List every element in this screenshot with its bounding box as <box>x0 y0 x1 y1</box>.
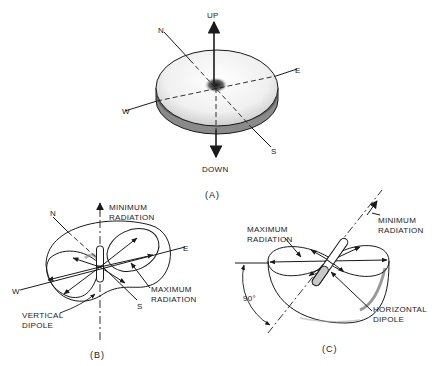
label-min-radiation-1: MINIMUM <box>109 203 147 212</box>
caption-b: (B) <box>90 350 105 360</box>
caption-a: (A) <box>205 190 220 200</box>
radiation-pattern-diagram: UP DOWN N S E W (A) <box>0 0 438 366</box>
label-min-radiation-2: RADIATION <box>109 213 155 222</box>
label-vertical-dipole-2: DIPOLE <box>22 321 53 330</box>
label-horizontal-dipole-1: HORIZONTAL <box>373 305 427 314</box>
figure-a-doughnut-pattern: UP DOWN N S E W (A) <box>122 11 301 200</box>
label-west: W <box>12 287 20 296</box>
label-east: E <box>295 66 301 75</box>
label-south: S <box>271 147 277 156</box>
label-south: S <box>137 302 143 311</box>
south-axis <box>252 128 271 147</box>
figure-b-vertical-dipole: N S E W MINIMUM RADIATION MAXIMUM RADIAT… <box>12 203 197 360</box>
figure-c-horizontal-dipole: MAXIMUM RADIATION MINIMUM RADIATION 90° … <box>235 190 427 354</box>
label-down: DOWN <box>202 165 229 174</box>
caption-c: (C) <box>322 344 338 354</box>
label-horizontal-dipole-2: DIPOLE <box>373 315 404 324</box>
label-max-radiation-1: MAXIMUM <box>247 225 288 234</box>
vertical-dipole-element <box>97 246 104 282</box>
label-vertical-dipole-1: VERTICAL <box>22 311 64 320</box>
label-east: E <box>183 244 189 253</box>
label-north: N <box>158 26 164 35</box>
label-max-radiation-2: RADIATION <box>151 295 197 304</box>
label-angle-90: 90° <box>243 294 256 303</box>
east-axis <box>276 69 297 76</box>
label-north: N <box>50 209 56 218</box>
north-axis <box>164 32 190 60</box>
label-max-radiation-2: RADIATION <box>247 235 293 244</box>
label-max-radiation-1: MAXIMUM <box>151 285 192 294</box>
label-up: UP <box>207 11 219 20</box>
label-west: W <box>122 107 130 116</box>
label-min-radiation-2: RADIATION <box>378 226 424 235</box>
label-min-radiation-1: MINIMUM <box>378 216 416 225</box>
